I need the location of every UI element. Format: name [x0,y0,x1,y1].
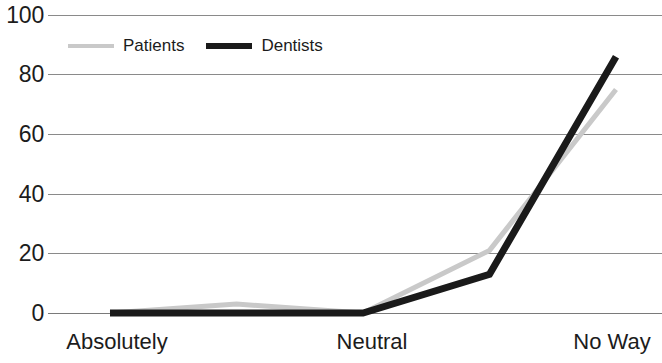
x-tick-no-way: No Way [573,329,650,355]
legend-label-dentists: Dentists [261,37,322,54]
legend-item-dentists: Dentists [206,37,322,54]
series-line-patients [110,90,616,314]
legend-line-swatch-patients-icon [68,44,114,48]
legend-line-swatch-dentists-icon [206,43,252,49]
series-line-dentists [110,57,616,313]
legend: Patients Dentists [68,37,323,54]
legend-label-patients: Patients [123,37,184,54]
x-tick-absolutely: Absolutely [66,329,168,355]
series-layer [0,0,662,363]
line-chart: 100 80 60 40 20 0 Patients Dentists Abso… [0,0,662,363]
legend-item-patients: Patients [68,37,184,54]
x-tick-neutral: Neutral [337,329,408,355]
x-axis-ticks: Absolutely Neutral No Way [0,329,662,363]
